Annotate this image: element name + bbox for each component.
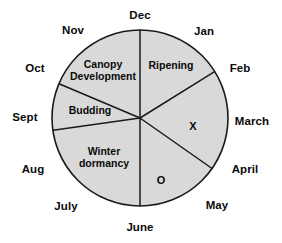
stage-label-budding-text: Budding <box>69 104 112 116</box>
month-label-june: June <box>126 222 153 234</box>
month-label-aug: Aug <box>22 164 45 176</box>
month-label-dec: Dec <box>129 10 150 22</box>
stage-label-winter-line2: dormancy <box>79 157 129 169</box>
month-label-may: May <box>206 200 229 212</box>
stage-label-canopy-development: Canopy Development <box>70 58 136 83</box>
month-label-jan: Jan <box>194 26 214 38</box>
marker-o: O <box>157 175 166 186</box>
stage-label-ripening-text: Ripening <box>149 59 194 71</box>
stage-label-ripening: Ripening <box>149 59 194 71</box>
month-label-april: April <box>232 164 259 176</box>
month-label-july: July <box>54 201 77 213</box>
stage-label-winter-dormancy: Winter dormancy <box>79 145 129 170</box>
month-label-feb: Feb <box>230 63 251 75</box>
stage-label-winter-line1: Winter <box>88 145 121 157</box>
month-label-sept: Sept <box>12 112 37 124</box>
month-label-nov: Nov <box>62 25 84 37</box>
month-label-march: March <box>235 116 269 128</box>
stage-label-budding: Budding <box>69 104 112 116</box>
growth-cycle-chart: Dec Jan Feb March April May June July Au… <box>0 0 282 243</box>
marker-x: X <box>189 121 196 132</box>
month-label-oct: Oct <box>25 63 44 75</box>
stage-label-canopy-line2: Development <box>70 70 136 82</box>
stage-label-canopy-line1: Canopy <box>84 58 123 70</box>
